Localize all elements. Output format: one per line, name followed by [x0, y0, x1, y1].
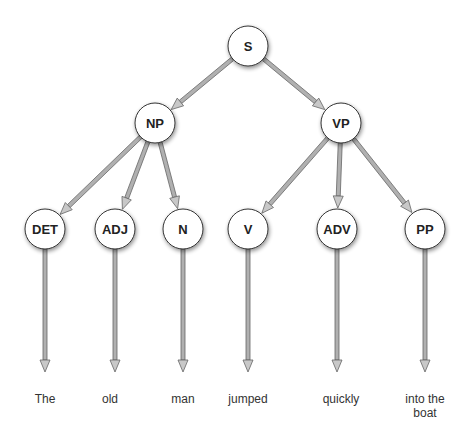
node-pp: PP	[405, 209, 445, 249]
word-adv: quickly	[301, 392, 381, 406]
node-n: N	[163, 209, 203, 249]
edge-s-np	[171, 57, 234, 109]
node-label: DET	[32, 222, 58, 237]
edge-np-n	[158, 142, 179, 209]
leaf-edges-layer	[40, 249, 430, 372]
arrowhead-icon	[40, 360, 50, 372]
word-v: jumped	[208, 392, 288, 406]
edge-vp-v	[262, 137, 329, 213]
arrowhead-icon	[110, 360, 120, 372]
parse-tree-diagram: SNPVPDETADJNVADVPP	[0, 0, 467, 432]
leaf-edge-pp	[420, 249, 430, 372]
edges-layer	[60, 57, 412, 214]
arrowhead-icon	[170, 196, 180, 209]
edge-vp-adv	[333, 143, 343, 208]
arrowhead-icon	[243, 360, 253, 372]
word-line-1: into the	[385, 392, 465, 406]
node-vp: VP	[321, 103, 361, 143]
node-label: V	[244, 222, 253, 237]
node-label: ADV	[323, 222, 351, 237]
node-label: N	[178, 222, 187, 237]
node-label: NP	[146, 116, 164, 131]
cut-off-caption	[0, 426, 467, 432]
leaf-edge-n	[178, 249, 188, 372]
arrowhead-icon	[332, 360, 342, 372]
node-np: NP	[135, 103, 175, 143]
word-adj: old	[70, 392, 150, 406]
node-s: S	[228, 26, 268, 66]
arrowhead-icon	[333, 196, 343, 208]
word-pp: into theboat	[385, 392, 465, 420]
node-label: S	[244, 39, 253, 54]
leaf-edge-v	[243, 249, 253, 372]
node-label: PP	[416, 222, 434, 237]
node-label: ADJ	[102, 222, 128, 237]
node-adj: ADJ	[95, 209, 135, 249]
word-line-2: boat	[385, 406, 465, 420]
node-adv: ADV	[317, 209, 357, 249]
leaf-edge-adj	[110, 249, 120, 372]
arrowhead-icon	[420, 360, 430, 372]
leaf-edge-det	[40, 249, 50, 372]
nodes-layer: SNPVPDETADJNVADVPP	[25, 26, 445, 249]
arrowhead-icon	[122, 196, 131, 209]
leaf-edge-adv	[332, 249, 342, 372]
node-v: V	[228, 209, 268, 249]
node-det: DET	[25, 209, 65, 249]
edge-s-vp	[262, 57, 325, 109]
edge-vp-pp	[352, 137, 412, 212]
arrowhead-icon	[178, 360, 188, 372]
node-label: VP	[332, 116, 350, 131]
edge-np-det	[60, 135, 142, 214]
